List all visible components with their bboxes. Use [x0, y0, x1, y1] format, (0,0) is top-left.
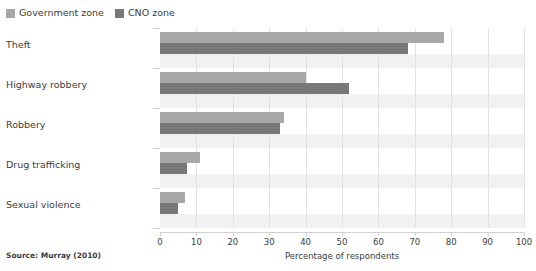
- x-axis-tick: [160, 232, 161, 236]
- x-axis-tick-label: 50: [337, 238, 348, 247]
- gridline-vertical: [306, 28, 307, 228]
- category-axis: TheftHighway robberyRobberyDrug traffick…: [0, 28, 152, 228]
- x-axis-tick-label: 100: [516, 238, 532, 247]
- gridline-vertical: [524, 28, 525, 228]
- bar-cno-zone[interactable]: [160, 83, 349, 94]
- x-axis-tick: [233, 232, 234, 236]
- x-axis-tick: [269, 232, 270, 236]
- chart-legend: Government zone CNO zone: [6, 6, 175, 20]
- gridline-vertical: [488, 28, 489, 228]
- legend-swatch-cno-zone: [115, 9, 124, 18]
- category-label: Sexual violence: [6, 200, 80, 210]
- x-axis-tick: [488, 232, 489, 236]
- bar-government-zone[interactable]: [160, 192, 185, 203]
- x-axis-tick-label: 40: [300, 238, 311, 247]
- legend-label-cno-zone: CNO zone: [128, 8, 175, 18]
- legend-label-government-zone: Government zone: [19, 8, 104, 18]
- bar-government-zone[interactable]: [160, 152, 200, 163]
- bar-government-zone[interactable]: [160, 72, 306, 83]
- category-tick: [153, 108, 160, 109]
- x-axis-tick: [196, 232, 197, 236]
- category-tick: [153, 68, 160, 69]
- x-axis-tick-label: 70: [409, 238, 420, 247]
- bar-cno-zone[interactable]: [160, 203, 178, 214]
- x-axis-tick-label: 10: [191, 238, 202, 247]
- category-label: Robbery: [6, 120, 45, 130]
- x-axis-tick: [524, 232, 525, 236]
- category-tick: [153, 228, 160, 229]
- x-axis-tick-label: 90: [482, 238, 493, 247]
- bar-cno-zone[interactable]: [160, 123, 280, 134]
- legend-item-government-zone[interactable]: Government zone: [6, 8, 104, 18]
- gridline-vertical: [342, 28, 343, 228]
- x-axis-tick-label: 30: [264, 238, 275, 247]
- category-label: Theft: [6, 40, 31, 50]
- category-label: Drug trafficking: [6, 160, 80, 170]
- category-tick: [153, 28, 160, 29]
- bar-cno-zone[interactable]: [160, 163, 187, 174]
- x-axis-tick: [378, 232, 379, 236]
- bar-government-zone[interactable]: [160, 32, 444, 43]
- bar-cno-zone[interactable]: [160, 43, 408, 54]
- legend-swatch-government-zone: [6, 9, 15, 18]
- x-axis-tick-label: 80: [446, 238, 457, 247]
- x-axis-tick: [306, 232, 307, 236]
- x-axis-tick-label: 20: [227, 238, 238, 247]
- x-axis-title: Percentage of respondents: [160, 252, 524, 261]
- x-axis-tick-label: 60: [373, 238, 384, 247]
- x-axis-tick: [451, 232, 452, 236]
- gridline-vertical: [378, 28, 379, 228]
- bar-government-zone[interactable]: [160, 112, 284, 123]
- category-tick: [153, 148, 160, 149]
- source-note: Source: Murray (2010): [6, 252, 101, 260]
- bar-chart: TheftHighway robberyRobberyDrug traffick…: [0, 28, 536, 234]
- category-label: Highway robbery: [6, 80, 87, 90]
- plot-area: [160, 28, 524, 228]
- gridline-vertical: [415, 28, 416, 228]
- legend-item-cno-zone[interactable]: CNO zone: [115, 8, 175, 18]
- x-axis-tick: [342, 232, 343, 236]
- category-tick: [153, 188, 160, 189]
- x-axis-tick-label: 0: [157, 238, 162, 247]
- x-axis-tick: [415, 232, 416, 236]
- gridline-vertical: [451, 28, 452, 228]
